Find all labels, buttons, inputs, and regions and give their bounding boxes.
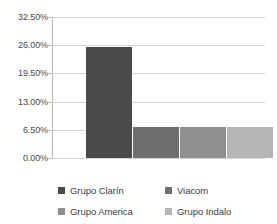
y-axis-tick-label: 19.50% — [2, 68, 48, 78]
y-axis-tick-label: 6.50% — [2, 125, 48, 135]
y-axis-tick-label: 13.00% — [2, 97, 48, 107]
y-axis-tick-label: 32.50% — [2, 12, 48, 22]
bar-grupo-clarin[interactable] — [86, 47, 132, 158]
legend-swatch-icon — [165, 187, 172, 194]
legend-swatch-icon — [58, 208, 65, 215]
legend-label: Grupo America — [70, 206, 133, 217]
y-axis-labels: 32.50% 26.00% 19.50% 13.00% 6.50% 0.00% — [0, 0, 48, 224]
bar-viacom[interactable] — [133, 127, 179, 158]
plot-area — [52, 17, 265, 158]
legend-swatch-icon — [58, 187, 65, 194]
legend-item-grupo-clarin[interactable]: Grupo Clarín — [58, 184, 165, 196]
legend-label: Viacom — [177, 185, 208, 196]
bar-grupo-indalo[interactable] — [227, 127, 273, 158]
legend-label: Grupo Indalo — [177, 206, 231, 217]
y-axis-tick-label: 26.00% — [2, 40, 48, 50]
legend-label: Grupo Clarín — [70, 185, 124, 196]
bar-chart: 32.50% 26.00% 19.50% 13.00% 6.50% 0.00% … — [0, 0, 277, 224]
chart-legend: Grupo Clarín Viacom Grupo America Grupo … — [58, 184, 273, 217]
legend-item-grupo-indalo[interactable]: Grupo Indalo — [165, 205, 272, 217]
legend-item-viacom[interactable]: Viacom — [165, 184, 272, 196]
y-axis-tick-label: 0.00% — [2, 153, 48, 163]
legend-swatch-icon — [165, 208, 172, 215]
legend-item-grupo-america[interactable]: Grupo America — [58, 205, 165, 217]
bar-grupo-america[interactable] — [180, 127, 226, 158]
gridline — [52, 158, 265, 159]
bar-series — [52, 17, 265, 158]
